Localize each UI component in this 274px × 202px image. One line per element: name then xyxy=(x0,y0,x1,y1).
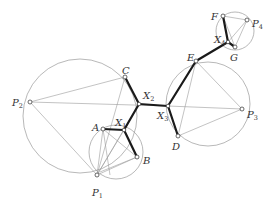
label-c: C xyxy=(122,65,130,76)
line-p2-p1 xyxy=(30,102,97,175)
label-b: B xyxy=(142,155,150,166)
label-p4: P4 xyxy=(251,18,263,31)
edge-x3-e xyxy=(168,61,196,106)
point-p2 xyxy=(28,100,32,104)
point-e xyxy=(194,59,198,63)
point-d xyxy=(176,134,180,138)
line-f-p4 xyxy=(223,16,247,20)
line-x4-p4 xyxy=(228,20,247,42)
label-p2: P2 xyxy=(11,97,23,110)
steiner-diagram: P1 P2 P3 P4 A B C D E F G X1 X2 X3 X4 xyxy=(0,0,274,202)
label-d: D xyxy=(171,141,180,152)
circle-left-large xyxy=(23,59,137,173)
line-x1-p1 xyxy=(97,130,124,175)
line-g-p4 xyxy=(235,20,247,47)
point-p1 xyxy=(95,173,99,177)
label-x4: X4 xyxy=(213,34,225,47)
edge-x1-b xyxy=(124,130,137,157)
label-x2: X2 xyxy=(142,90,154,103)
line-p2-c xyxy=(30,77,125,102)
point-x2 xyxy=(137,102,141,106)
point-p4 xyxy=(245,18,249,22)
label-e: E xyxy=(186,52,195,63)
point-a xyxy=(101,127,105,131)
point-f xyxy=(221,14,225,18)
point-g xyxy=(233,45,237,49)
label-x1: X1 xyxy=(114,117,126,130)
line-b-p1b xyxy=(100,157,137,172)
label-p3: P3 xyxy=(246,109,258,122)
label-a: A xyxy=(91,122,99,133)
point-x3 xyxy=(166,104,170,108)
label-p1: P1 xyxy=(91,187,103,200)
edge-x2-x3 xyxy=(139,104,168,106)
edge-a-x1 xyxy=(103,129,124,130)
point-b xyxy=(135,155,139,159)
line-d-p3 xyxy=(178,109,242,136)
label-f: F xyxy=(210,11,219,22)
point-x4 xyxy=(226,40,230,44)
line-x3-p3 xyxy=(168,106,242,109)
edge-c-x2 xyxy=(125,77,139,104)
line-e-p3 xyxy=(196,61,242,109)
line-a-b xyxy=(103,129,137,157)
label-g: G xyxy=(230,52,238,63)
point-p3 xyxy=(240,107,244,111)
line-a-p1 xyxy=(97,129,103,175)
